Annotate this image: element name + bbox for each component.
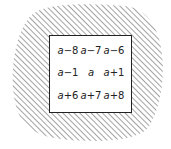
neighborhood-diagram: a−8 a−7 a−6 a−1 a a+1 a+6 a+7 a+8 xyxy=(0,0,171,149)
cell-offset: +1 xyxy=(110,67,125,78)
cell-r2-c0: a+6 xyxy=(58,91,79,101)
cell-r0-c0: a−8 xyxy=(58,46,79,56)
cell-r0-c1: a−7 xyxy=(81,46,102,56)
cell-offset: −7 xyxy=(87,45,102,56)
cell-offset: +6 xyxy=(64,90,79,101)
cell-offset: +8 xyxy=(110,90,125,101)
cell-r2-c1: a+7 xyxy=(81,91,102,101)
cell-r1-c1-center: a xyxy=(88,68,94,78)
hatched-region xyxy=(0,0,171,149)
cell-r1-c2: a+1 xyxy=(104,68,125,78)
cell-offset: −6 xyxy=(110,45,125,56)
cell-offset: −8 xyxy=(64,45,79,56)
cell-var: a xyxy=(88,67,94,78)
cell-r1-c0: a−1 xyxy=(58,68,79,78)
cell-offset: −1 xyxy=(64,67,79,78)
cell-r2-c2: a+8 xyxy=(104,91,125,101)
cell-r0-c2: a−6 xyxy=(104,46,125,56)
cell-offset: +7 xyxy=(87,90,102,101)
